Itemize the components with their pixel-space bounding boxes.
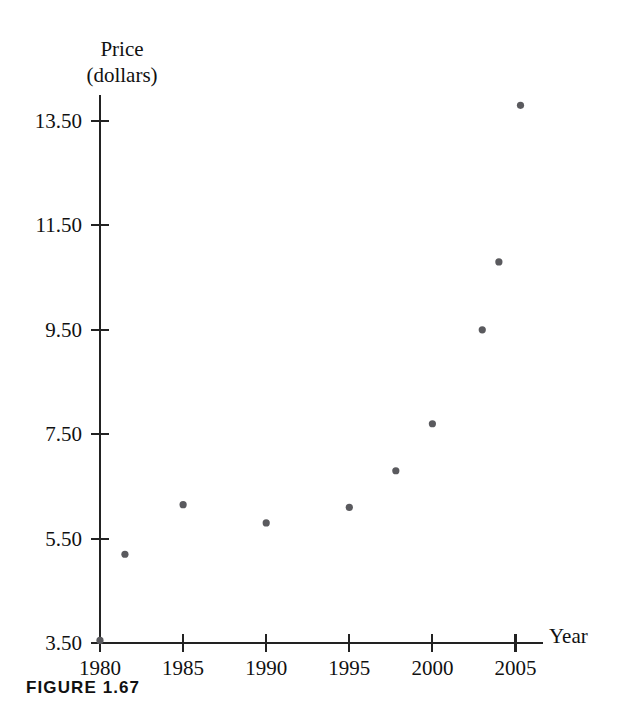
x-tick-label: 1980 — [79, 658, 121, 679]
y-axis-title-line-1: Price — [62, 36, 182, 62]
y-axis-title: Price (dollars) — [62, 36, 182, 89]
data-point — [180, 501, 187, 508]
x-tick-label: 2005 — [495, 658, 537, 679]
data-point — [121, 551, 128, 558]
y-tick-label: 11.50 — [0, 215, 82, 236]
x-tick-label: 1995 — [328, 658, 370, 679]
data-point — [495, 258, 502, 265]
data-point — [517, 102, 524, 109]
data-point — [346, 504, 353, 511]
y-tick-label: 7.50 — [0, 424, 82, 445]
data-point — [263, 519, 270, 526]
y-tick-label: 5.50 — [0, 528, 82, 549]
figure-caption: FIGURE 1.67 — [26, 678, 140, 698]
y-axis-title-line-2: (dollars) — [62, 62, 182, 88]
figure-container: Price (dollars) Year 3.505.507.509.5011.… — [0, 0, 623, 726]
y-tick-label: 3.50 — [0, 633, 82, 654]
x-tick-label: 1985 — [162, 658, 204, 679]
axes-group — [100, 95, 543, 643]
data-point — [429, 420, 436, 427]
data-point — [392, 467, 399, 474]
y-tick-label: 9.50 — [0, 319, 82, 340]
scatter-plot-svg — [0, 0, 623, 726]
y-tick-label: 13.50 — [0, 111, 82, 132]
data-points-group — [96, 102, 524, 644]
x-tick-label: 2000 — [411, 658, 453, 679]
data-point — [96, 637, 103, 644]
x-tick-label: 1990 — [245, 658, 287, 679]
data-point — [479, 326, 486, 333]
x-axis-title: Year — [549, 626, 588, 647]
